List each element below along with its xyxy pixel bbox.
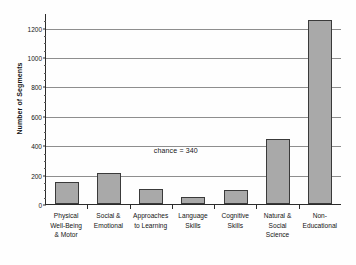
x-axis-category-label-line: Social	[257, 221, 297, 231]
x-axis-category-label-line: Approaches	[131, 211, 171, 221]
y-tick-label: 1000	[28, 55, 42, 62]
x-tick-mark	[130, 205, 131, 209]
bar-slot	[299, 14, 341, 204]
x-axis-category-label-line: Emotional	[88, 221, 128, 231]
x-axis-category-label: Social &Emotional	[87, 211, 129, 240]
x-axis-category-label-line: Natural &	[257, 211, 297, 221]
x-axis-ticks	[45, 205, 341, 209]
x-axis-labels: PhysicalWell-Being& MotorSocial &Emotion…	[45, 211, 341, 240]
x-axis-category-label-line: Language	[173, 211, 213, 221]
y-tick-label: 800	[31, 84, 42, 91]
x-axis-category-label-line: Educational	[300, 221, 340, 231]
bar-slot	[130, 14, 172, 204]
x-axis-category-label-line: Social &	[88, 211, 128, 221]
x-axis-category-label-line: Non-	[300, 211, 340, 221]
plot-area: 020040060080010001200 chance = 340	[45, 14, 341, 205]
bar-slot	[215, 14, 257, 204]
bar	[55, 182, 79, 204]
x-axis-category-label-line: Physical	[46, 211, 86, 221]
bar-slot	[46, 14, 88, 204]
x-axis-category-label: Non-Educational	[299, 211, 341, 240]
y-tick-label: 0	[38, 202, 42, 209]
y-tick-label: 200	[31, 172, 42, 179]
bar	[181, 197, 205, 204]
x-tick-mark	[87, 205, 88, 209]
x-axis-category-label-line: Skills	[215, 221, 255, 231]
bar-slot	[172, 14, 214, 204]
x-tick-mark	[214, 205, 215, 209]
x-axis-category-label-line: Science	[257, 230, 297, 240]
bar-chart: Number of Segments 020040060080010001200…	[0, 0, 356, 265]
bar	[224, 190, 248, 204]
x-tick-mark	[299, 205, 300, 209]
x-axis-category-label: PhysicalWell-Being& Motor	[45, 211, 87, 240]
x-axis-category-label: Approachesto Learning	[130, 211, 172, 240]
x-axis-category-label: CognitiveSkills	[214, 211, 256, 240]
bar	[139, 189, 163, 204]
chance-annotation: chance = 340	[154, 147, 198, 154]
bar	[266, 139, 290, 204]
y-tick-label: 1200	[28, 25, 42, 32]
x-tick-mark	[256, 205, 257, 209]
bar	[97, 173, 121, 204]
x-axis-category-label-line: Skills	[173, 221, 213, 231]
bar-series	[46, 14, 341, 204]
x-axis-category-label: LanguageSkills	[172, 211, 214, 240]
x-axis-category-label-line: to Learning	[131, 221, 171, 231]
bar-slot	[257, 14, 299, 204]
x-axis-category-label-line: & Motor	[46, 230, 86, 240]
y-tick-label: 400	[31, 143, 42, 150]
x-axis-category-label: Natural &SocialScience	[256, 211, 298, 240]
y-axis-title: Number of Segments	[16, 39, 23, 159]
bar	[308, 20, 332, 204]
y-tick-label: 600	[31, 113, 42, 120]
x-axis-category-label-line: Cognitive	[215, 211, 255, 221]
bar-slot	[88, 14, 130, 204]
x-axis-category-label-line: Well-Being	[46, 221, 86, 231]
x-tick-mark	[172, 205, 173, 209]
